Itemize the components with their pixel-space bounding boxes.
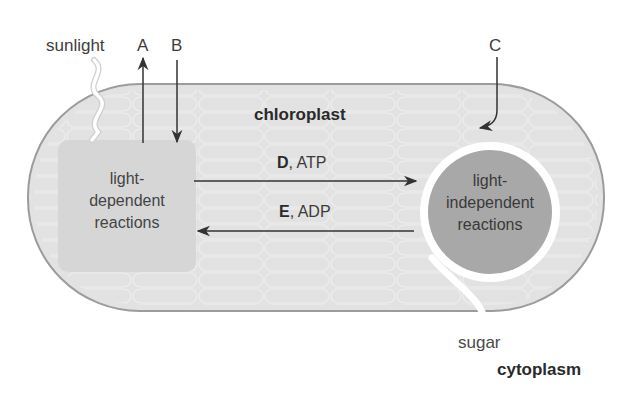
label-chloroplast: chloroplast — [254, 105, 346, 125]
light-dependent-line2: dependent — [58, 190, 196, 212]
light-independent-line3: reactions — [425, 214, 555, 236]
label-d-atp: D, ATP — [277, 154, 327, 172]
label-b: B — [171, 36, 182, 56]
label-d-letter: D — [277, 154, 289, 171]
light-dependent-label: light- dependent reactions — [58, 168, 196, 234]
label-sunlight: sunlight — [46, 36, 105, 56]
light-independent-label: light- independent reactions — [425, 170, 555, 236]
light-dependent-line3: reactions — [58, 212, 196, 234]
light-independent-line2: independent — [425, 192, 555, 214]
label-e-adp: E, ADP — [279, 203, 331, 221]
label-a: A — [137, 36, 148, 56]
label-sugar: sugar — [458, 333, 501, 353]
label-adp: , ADP — [290, 203, 331, 220]
label-e-letter: E — [279, 203, 290, 220]
light-dependent-line1: light- — [58, 168, 196, 190]
label-c: C — [489, 36, 501, 56]
label-cytoplasm: cytoplasm — [497, 360, 581, 380]
label-atp: , ATP — [289, 154, 327, 171]
light-independent-line1: light- — [425, 170, 555, 192]
